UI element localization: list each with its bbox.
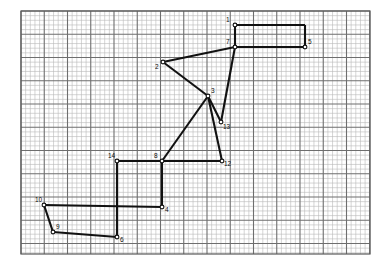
- vertex-label-2: 2: [155, 63, 158, 70]
- vertex-label-1: 1: [226, 16, 229, 23]
- figure-segment-7-to-2: [163, 47, 235, 62]
- vertex-marker-1[interactable]: [233, 23, 237, 27]
- grid-major-lines: [21, 11, 370, 254]
- vertex-label-14: 14: [108, 152, 115, 159]
- vertex-label-3: 3: [211, 87, 214, 94]
- figure-segment-4-to-10: [44, 205, 162, 207]
- grid-frame: [21, 11, 370, 254]
- vertex-marker-2[interactable]: [161, 60, 165, 64]
- vertex-label-5: 5: [308, 38, 311, 45]
- vertex-label-12: 12: [224, 160, 231, 167]
- figure-segment-10-to-9: [44, 205, 53, 232]
- vertex-label-4: 4: [165, 206, 168, 213]
- vertex-label-9: 9: [56, 223, 59, 230]
- vertex-label-7: 7: [226, 38, 229, 45]
- vertex-label-6: 6: [120, 236, 123, 243]
- figure-root: 17523131481241096: [0, 0, 388, 267]
- vertex-label-10: 10: [35, 196, 42, 203]
- vertex-marker-3[interactable]: [206, 94, 210, 98]
- figure-segment-7-to-13: [221, 47, 235, 122]
- vertex-label-8: 8: [154, 152, 157, 159]
- vertex-marker-8[interactable]: [160, 159, 164, 163]
- grid-minor-lines: [21, 11, 370, 254]
- figure-segment-3-to-12: [208, 96, 222, 161]
- vertex-label-13: 13: [223, 123, 230, 130]
- vertex-marker-4[interactable]: [160, 205, 164, 209]
- vertex-marker-6[interactable]: [115, 235, 119, 239]
- vertex-marker-14[interactable]: [115, 159, 119, 163]
- vertex-marker-5[interactable]: [303, 45, 307, 49]
- vertex-marker-7[interactable]: [233, 45, 237, 49]
- vertex-marker-9[interactable]: [51, 230, 55, 234]
- vertex-marker-10[interactable]: [42, 203, 46, 207]
- figure-segment-3-to-8: [162, 96, 208, 161]
